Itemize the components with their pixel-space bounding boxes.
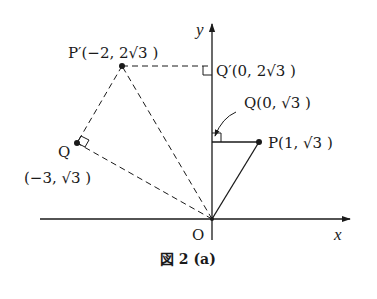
label-Qleft-coords: (−3, √3 ) xyxy=(24,169,91,187)
figure-caption: 図 2 (a) xyxy=(160,251,216,267)
segment-O-Qleft xyxy=(77,143,212,219)
right-angle-mark-Q xyxy=(212,133,221,142)
label-Qprime: Q′(0, 2√3 ) xyxy=(216,62,296,80)
label-origin: O xyxy=(192,226,204,244)
point-Pprime xyxy=(119,63,125,69)
label-Pprime: P′(−2, 2√3 ) xyxy=(68,44,158,62)
label-Q: Q(0, √3 ) xyxy=(244,94,311,112)
segment-Pprime-Qleft xyxy=(77,66,122,143)
point-Qleft xyxy=(74,140,80,146)
coordinate-diagram: P′(−2, 2√3 ) Q′(0, 2√3 ) Q(0, √3 ) P(1, … xyxy=(0,0,377,299)
label-Qleft-name: Q xyxy=(58,143,70,161)
label-P: P(1, √3 ) xyxy=(268,134,333,152)
segment-O-Pprime xyxy=(122,66,212,219)
label-y-axis: y xyxy=(194,20,204,39)
point-P xyxy=(256,139,262,145)
right-angle-mark-Qprime xyxy=(203,66,212,75)
segment-O-P xyxy=(212,142,259,219)
point-O xyxy=(210,217,214,221)
label-x-axis: x xyxy=(333,225,342,244)
leader-line-Q xyxy=(215,112,236,136)
